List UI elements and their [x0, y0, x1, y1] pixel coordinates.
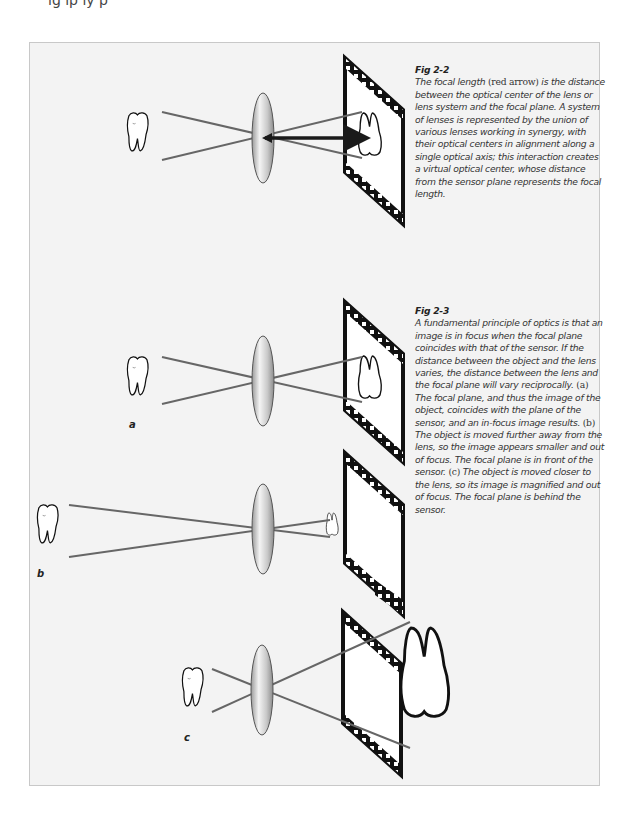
- image-tooth-icon: [326, 513, 338, 535]
- sensor-film-frame-icon: [345, 453, 403, 615]
- fig-2-3b-diagram: [37, 453, 403, 615]
- sensor-film-frame-icon: [343, 612, 401, 775]
- panel-label-c: c: [184, 732, 190, 743]
- figure-label: Fig 2-2: [415, 64, 605, 76]
- magnified-image-tooth-icon: [401, 628, 448, 716]
- object-tooth-icon: [127, 113, 148, 151]
- fig-2-2-caption: Fig 2-2 The focal length (red arrow) is …: [415, 64, 605, 200]
- object-tooth-icon: [37, 505, 58, 543]
- fig-2-2-diagram: [127, 58, 403, 224]
- object-tooth-icon: [127, 357, 148, 395]
- panel-label-b: b: [37, 568, 44, 579]
- lens-icon: [252, 336, 274, 426]
- fig-2-3c-diagram: [182, 580, 448, 775]
- lens-icon: [251, 645, 273, 735]
- object-tooth-icon: [182, 668, 203, 706]
- fig-2-3-caption: Fig 2-3 A fundamental principle of optic…: [415, 305, 605, 516]
- panel-label-a: a: [129, 419, 136, 430]
- figure-label: Fig 2-3: [415, 305, 605, 317]
- fig-2-3a-diagram: [127, 302, 403, 462]
- lens-icon: [252, 484, 274, 574]
